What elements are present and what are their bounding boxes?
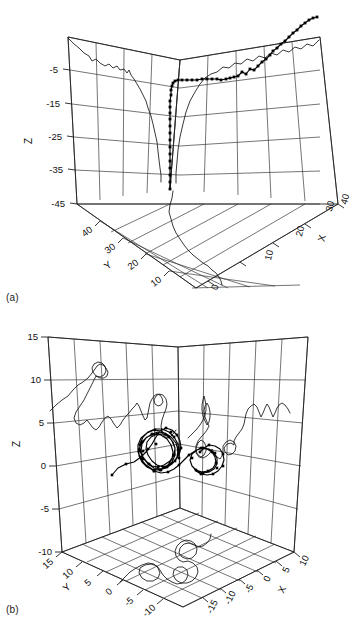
panel-a-ztick-4: -45	[51, 198, 65, 209]
panel-b-x-ticks: 10 5 0 -5 -10 -15 X	[202, 552, 311, 615]
panel-b-ztick-2: 5	[39, 417, 44, 428]
panel-b-ztick-4: -5	[41, 503, 49, 514]
panel-b-box	[48, 337, 308, 607]
panel-a-xy-projection	[169, 191, 222, 285]
panel-b-ytick-4: -5	[122, 594, 136, 608]
panel-a-trajectory	[169, 16, 319, 191]
panel-b-caption: (b)	[6, 604, 19, 615]
panel-a-xtick-2: 20	[293, 225, 306, 238]
panel-b-plot: 15 10 5 0 -5 -10 Z 15 10 5 0 -5	[0, 310, 351, 629]
panel-a-caption: (a)	[6, 292, 19, 303]
panel-a-xtick-0: 0	[209, 283, 221, 291]
panel-a: -5 -15 -25 -35 -45 Z 40 30 20 10 Y	[0, 0, 351, 312]
panel-b-yz-projection	[50, 362, 176, 438]
panel-a-ytick-3: 40	[79, 224, 94, 239]
panel-a-xtick-1: 10	[262, 249, 275, 262]
panel-a-x-axis-label: X	[315, 233, 327, 243]
panel-a-ztick-0: -5	[50, 64, 58, 75]
panel-b-trajectory	[111, 427, 225, 477]
panel-b-ytick-1: 10	[60, 566, 75, 581]
panel-a-ztick-2: -25	[48, 131, 62, 142]
panel-b-xtick-3: -5	[242, 582, 256, 594]
panel-a-z-ticks: -5 -15 -25 -35 -45 Z	[23, 64, 77, 209]
panel-a-ytick-1: 20	[125, 257, 140, 272]
panel-b-ytick-2: 5	[82, 577, 93, 589]
panel-b: 15 10 5 0 -5 -10 Z 15 10 5 0 -5	[0, 310, 351, 629]
panel-b-ztick-1: 10	[30, 374, 41, 385]
panel-b-ztick-5: -10	[38, 546, 52, 557]
panel-a-xtick-4: 40	[338, 193, 351, 206]
panel-b-xtick-1: 5	[280, 565, 292, 575]
panel-b-z-ticks: 15 10 5 0 -5 -10 Z	[11, 331, 62, 557]
panel-a-y-axis-label: Y	[102, 259, 114, 272]
panel-a-x-ticks: 40 30 20 10 0 X	[208, 193, 351, 292]
panel-a-ytick-2: 30	[102, 241, 117, 256]
panel-a-ztick-1: -15	[46, 98, 60, 109]
panel-b-ytick-0: 15	[40, 556, 55, 571]
panel-b-y-ticks: 15 10 5 0 -5 -10 Y	[40, 552, 163, 619]
panel-b-xtick-2: 0	[261, 574, 273, 584]
panel-b-ytick-3: 0	[103, 586, 114, 598]
panel-a-ytick-0: 10	[148, 274, 163, 289]
panel-b-y-axis-label: Y	[60, 581, 73, 594]
panel-b-ztick-3: 0	[41, 460, 46, 471]
panel-b-z-axis-label: Z	[11, 441, 22, 447]
figure-root: -5 -15 -25 -35 -45 Z 40 30 20 10 Y	[0, 0, 351, 629]
panel-a-markers	[169, 16, 319, 191]
panel-b-ztick-0: 15	[27, 331, 38, 342]
panel-a-ztick-3: -35	[49, 164, 63, 175]
panel-b-x-axis-label: X	[275, 584, 288, 595]
panel-a-plot: -5 -15 -25 -35 -45 Z 40 30 20 10 Y	[0, 0, 351, 312]
panel-a-z-axis-label: Z	[23, 138, 34, 144]
panel-a-y-ticks: 40 30 20 10 Y	[79, 221, 169, 289]
panel-a-xtick-3: 30	[323, 200, 336, 213]
panel-b-ytick-5: -10	[140, 602, 158, 619]
panel-a-yz-projection	[68, 38, 161, 182]
